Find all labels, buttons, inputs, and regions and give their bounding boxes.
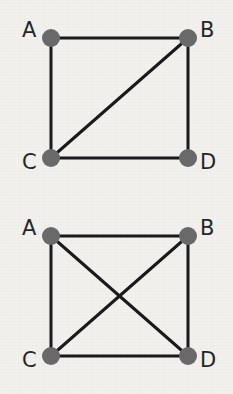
graph-node-b[interactable] [179, 227, 197, 245]
graph-node-label-d: D [200, 350, 216, 371]
graph-node-label-a: A [22, 218, 36, 239]
graph-node-b[interactable] [179, 29, 197, 47]
graph-node-c[interactable] [42, 149, 60, 167]
graph-node-label-c: C [22, 152, 37, 173]
graph-edge-c-b [51, 38, 188, 158]
lower-graph [42, 227, 197, 365]
graph-node-d[interactable] [179, 347, 197, 365]
graph-node-a[interactable] [42, 227, 60, 245]
graph-node-label-c: C [22, 350, 37, 371]
graph-node-label-b: B [200, 218, 214, 239]
graph-node-label-b: B [200, 20, 214, 41]
graph-node-label-a: A [22, 20, 36, 41]
graph-node-c[interactable] [42, 347, 60, 365]
graph-node-a[interactable] [42, 29, 60, 47]
graph-drawing-layer [0, 0, 233, 394]
upper-graph [42, 29, 197, 167]
graph-node-label-d: D [200, 152, 216, 173]
diagram-canvas: ABCDABCD [0, 0, 233, 394]
graph-node-d[interactable] [179, 149, 197, 167]
